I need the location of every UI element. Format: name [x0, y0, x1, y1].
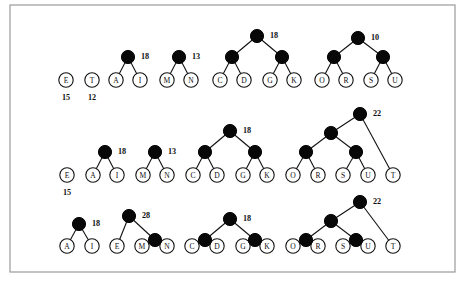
internal-node: [351, 31, 364, 44]
leaf-node-label: C: [217, 76, 222, 85]
leaf-node-label: S: [369, 76, 373, 85]
internal-node: [72, 217, 85, 230]
internal-node: [122, 209, 135, 222]
internal-weight-label: 13: [168, 147, 176, 156]
internal-weight-label: 18: [243, 126, 251, 135]
leaf-node-label: T: [391, 242, 396, 251]
leaf-node-label: E: [115, 242, 120, 251]
internal-node: [148, 145, 161, 158]
internal-node: [275, 50, 288, 63]
leaf-weight-label: 12: [88, 93, 96, 102]
leaf-node-label: D: [241, 76, 247, 85]
internal-node: [299, 233, 312, 246]
leaf-node-label: A: [90, 171, 96, 180]
leaf-node-label: E: [65, 171, 70, 180]
internal-node: [172, 50, 185, 63]
internal-node: [324, 126, 337, 139]
internal-weight-label: 18: [141, 52, 149, 61]
leaf-node-label: G: [240, 171, 246, 180]
internal-weight-label: 10: [371, 33, 379, 42]
leaf-node-label: K: [264, 171, 270, 180]
internal-weight-label: 18: [243, 214, 251, 223]
huffman-tree-figure: E15T12AIMNCDGKORSU18131810E15AIMNCDGKORS…: [0, 0, 464, 289]
leaf-node-label: U: [365, 242, 371, 251]
internal-weight-label: 18: [118, 147, 126, 156]
internal-node: [353, 107, 366, 120]
leaf-node-label: S: [341, 171, 345, 180]
internal-node: [327, 50, 340, 63]
leaf-node-label: A: [113, 76, 119, 85]
leaf-node-label: K: [264, 242, 270, 251]
internal-node: [376, 50, 389, 63]
leaf-node-label: K: [291, 76, 297, 85]
figure-frame: [10, 5, 455, 272]
leaf-node-label: O: [290, 171, 296, 180]
internal-node: [248, 145, 261, 158]
leaf-node-label: G: [240, 242, 246, 251]
internal-node: [353, 195, 366, 208]
leaf-node-label: M: [139, 242, 146, 251]
figure-canvas: E15T12AIMNCDGKORSU18131810E15AIMNCDGKORS…: [0, 0, 464, 289]
internal-node: [349, 145, 362, 158]
leaf-weight-label: 15: [62, 93, 70, 102]
internal-node: [299, 145, 312, 158]
leaf-node-label: T: [90, 76, 95, 85]
leaf-node-label: U: [392, 76, 398, 85]
internal-node: [98, 145, 111, 158]
leaf-node-label: M: [140, 171, 147, 180]
leaf-node-label: O: [319, 76, 325, 85]
leaf-weight-label: 15: [63, 188, 71, 197]
leaf-node-label: N: [164, 171, 170, 180]
leaf-node-label: U: [365, 171, 371, 180]
internal-node: [223, 124, 236, 137]
internal-weight-label: 18: [92, 219, 100, 228]
leaf-node-label: D: [214, 171, 220, 180]
leaf-node-label: N: [188, 76, 194, 85]
internal-node: [223, 212, 236, 225]
internal-node: [324, 214, 337, 227]
internal-weight-label: 22: [373, 197, 381, 206]
internal-node: [148, 233, 161, 246]
leaf-node-label: C: [189, 242, 194, 251]
internal-node: [198, 145, 211, 158]
internal-node: [349, 233, 362, 246]
internal-weight-label: 22: [373, 109, 381, 118]
internal-node: [198, 233, 211, 246]
internal-weight-label: 13: [192, 52, 200, 61]
internal-node: [250, 29, 263, 42]
internal-weight-label: 28: [142, 211, 150, 220]
leaf-node-label: T: [391, 171, 396, 180]
leaf-node-label: E: [64, 76, 69, 85]
leaf-node-label: S: [341, 242, 345, 251]
internal-weight-label: 18: [270, 31, 278, 40]
internal-node: [248, 233, 261, 246]
internal-node: [225, 50, 238, 63]
internal-node: [121, 50, 134, 63]
leaf-node-label: D: [214, 242, 220, 251]
leaf-node-label: N: [164, 242, 170, 251]
leaf-node-label: O: [290, 242, 296, 251]
leaf-node-label: A: [64, 242, 70, 251]
leaf-node-label: C: [190, 171, 195, 180]
leaf-node-label: M: [164, 76, 171, 85]
leaf-node-label: G: [267, 76, 273, 85]
